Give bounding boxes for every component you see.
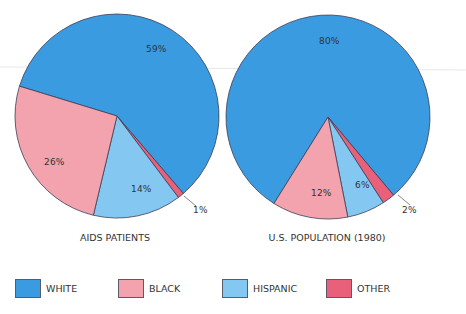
slice-label-black-aids: 26%	[44, 157, 65, 167]
legend-label-other: OTHER	[357, 283, 390, 294]
slice-label-other-us: 2%	[402, 205, 417, 215]
legend-item-hispanic: HISPANIC	[222, 279, 297, 298]
charts-canvas	[0, 0, 466, 314]
chart-title-aids-patients: AIDS PATIENTS	[80, 232, 150, 243]
legend-label-white: WHITE	[46, 283, 77, 294]
legend-swatch-other	[326, 279, 352, 298]
legend-label-black: BLACK	[149, 283, 180, 294]
legend-swatch-hispanic	[222, 279, 248, 298]
legend-item-black: BLACK	[118, 279, 180, 298]
slice-label-hispanic-aids: 14%	[131, 184, 152, 194]
legend-label-hispanic: HISPANIC	[253, 283, 297, 294]
pie-aids-patients	[15, 14, 219, 218]
leader-line-other-us	[398, 195, 410, 205]
slice-label-other-aids: 1%	[193, 205, 208, 215]
slice-label-white-aids: 59%	[146, 44, 167, 54]
legend-item-white: WHITE	[15, 279, 77, 298]
slice-label-black-us: 12%	[311, 188, 332, 198]
slice-label-white-us: 80%	[319, 36, 340, 46]
legend-swatch-white	[15, 279, 41, 298]
slice-label-hispanic-us: 6%	[355, 180, 370, 190]
legend-swatch-black	[118, 279, 144, 298]
legend-item-other: OTHER	[326, 279, 390, 298]
chart-title-us-population: U.S. POPULATION (1980)	[268, 232, 385, 243]
